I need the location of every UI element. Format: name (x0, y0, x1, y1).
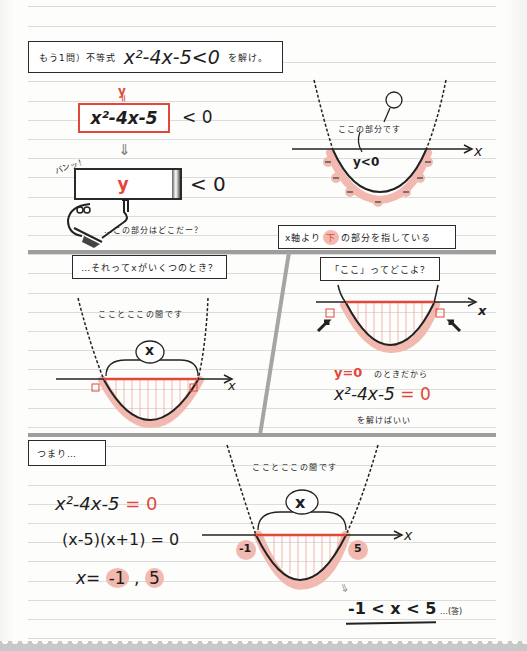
problem-suffix: を解け。 (228, 51, 268, 64)
solve-instruction: を解けばいい (357, 414, 411, 425)
root-right: 5 (145, 568, 164, 588)
condition-text: のときだから (374, 370, 428, 379)
which-x-caption-box: …それってxがいくつのとき？ (72, 255, 227, 279)
where-here-caption: 「ここ」ってどこよ？ (330, 263, 430, 276)
solve-line-1: x²-4x-5 = 0 (55, 493, 157, 514)
conclusion-caption-box: つまり… (28, 440, 106, 466)
lt-zero-1: < 0 (182, 107, 212, 127)
parabola-graph-1 (280, 70, 527, 220)
x-bubble-1: x (145, 342, 154, 358)
parabola-graph-4 (200, 440, 440, 600)
y-lt-zero-label: y<0 (353, 155, 379, 169)
root-label-left: -1 (239, 542, 251, 555)
expression-text: x²-4x-5 (90, 108, 157, 128)
y-equals-zero-line: y=0 のときだから (334, 362, 428, 381)
expression-box: x²-4x-5 (78, 103, 170, 133)
roots-line: x= -1 , 5 (76, 568, 164, 588)
which-x-caption: …それってxがいくつのとき？ (81, 261, 217, 274)
equation-black: x²-4x-5 (334, 384, 395, 404)
caption-highlight: 下 (323, 230, 339, 245)
notebook-page: もう1問）不等式 x²-4x-5<0 を解け。 y = x²-4x-5 < 0 … (0, 0, 527, 651)
sign-y: y (117, 174, 128, 194)
problem-header-box: もう1問）不等式 x²-4x-5<0 を解け。 (28, 41, 283, 73)
line1-red: = 0 (125, 493, 157, 514)
factored-line: (x-5)(x+1) = 0 (62, 530, 179, 549)
separator-top (28, 250, 496, 254)
sign-board: y (74, 168, 182, 200)
conclusion-caption: つまり… (37, 447, 77, 460)
separator-middle (28, 433, 496, 437)
caption-prefix: x軸より (285, 231, 321, 244)
root-label-right: 5 (354, 542, 362, 555)
below-axis-caption-box: x軸より 下 の部分を指している (278, 225, 456, 249)
x-axis-label-1: x (474, 143, 482, 159)
equation-red: = 0 (400, 384, 430, 404)
equals-mark: = (118, 94, 129, 102)
root-left: -1 (106, 568, 129, 588)
equation-line: x²-4x-5 = 0 (334, 384, 431, 404)
final-answer: -1 < x < 5 (348, 599, 436, 618)
problem-prefix: もう1問）不等式 (39, 51, 116, 64)
answer-suffix: …(答) (440, 605, 462, 616)
character-holding-sign-icon (60, 198, 150, 248)
answer-underline (346, 621, 436, 625)
y-equals-zero: y=0 (334, 365, 362, 380)
x-axis-label-4: x (404, 527, 412, 543)
parabola-graph-3 (310, 285, 520, 365)
lt-zero-2: < 0 (190, 172, 226, 196)
roots-comma: , (134, 568, 139, 588)
separator-diagonal (258, 252, 291, 433)
x-axis-label-3: x (478, 303, 486, 318)
where-here-caption-box: 「ここ」ってどこよ？ (320, 257, 440, 281)
down-arrow-icon: ⇓ (118, 141, 131, 159)
x-axis-label-2: x (228, 378, 236, 393)
x-bubble-2: x (295, 493, 305, 512)
here-part-label: ここの部分です (338, 123, 401, 134)
where-question: …この部分はどこだー？ (104, 224, 203, 235)
line1-black: x²-4x-5 (55, 493, 119, 514)
caption-suffix: の部分を指している (341, 231, 431, 244)
problem-expression: x²-4x-5<0 (124, 46, 220, 68)
parabola-graph-2 (50, 300, 250, 430)
perforated-edge (0, 641, 527, 651)
roots-prefix: x= (76, 568, 100, 588)
